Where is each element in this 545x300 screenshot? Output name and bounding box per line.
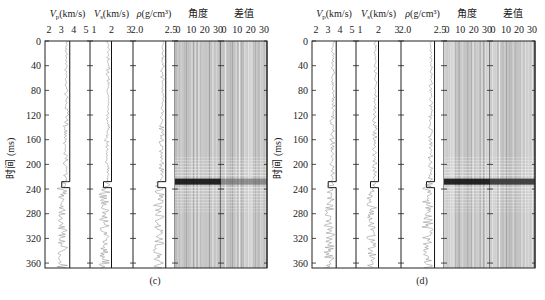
- track-residual: 差值0102030: [221, 7, 269, 268]
- track-tick-label: 3: [59, 24, 64, 35]
- track-tick-label: 2: [109, 24, 114, 35]
- time-axis: 04080120160200240280320360时间 (ms): [271, 36, 316, 269]
- track-rho: ρ(g/cm³)2.02.5: [131, 8, 178, 268]
- track-tick-label: 10: [186, 24, 196, 35]
- track-tick-label: 0: [491, 24, 496, 35]
- track-tick-label: 0: [445, 24, 450, 35]
- time-tick-label: 0: [36, 36, 41, 47]
- time-tick-label: 80: [31, 85, 41, 96]
- time-tick-label: 160: [26, 134, 41, 145]
- time-tick-label: 120: [293, 110, 308, 121]
- time-tick-label: 360: [26, 258, 41, 269]
- time-tick-label: 280: [293, 208, 308, 219]
- time-tick-label: 120: [26, 110, 41, 121]
- track-vs: Vs(km/s)123: [92, 8, 137, 268]
- track-tick-label: 10: [232, 24, 242, 35]
- panel-caption: (d): [416, 275, 428, 287]
- time-tick-label: 240: [293, 184, 308, 195]
- time-tick-label: 200: [26, 159, 41, 170]
- track-header: Vp(km/s): [316, 8, 352, 21]
- track-tick-label: 20: [200, 24, 210, 35]
- track-tick-label: 2: [47, 24, 52, 35]
- track-vp: Vp(km/s)2345: [314, 8, 360, 268]
- track-vs: Vs(km/s)123: [358, 8, 405, 268]
- track-angle-gather: 角度0102030: [175, 7, 223, 268]
- track-tick-label: 10: [455, 24, 465, 35]
- track-tick-label: 2.0: [399, 24, 412, 35]
- panel-c: 04080120160200240280320360时间 (ms)Vp(km/s…: [4, 7, 269, 287]
- track-header: Vs(km/s): [361, 8, 396, 21]
- time-tick-label: 320: [26, 233, 41, 244]
- panel-caption: (c): [149, 275, 160, 287]
- track-header: 差值: [234, 7, 254, 19]
- seismic-log-figure: 04080120160200240280320360时间 (ms)Vp(km/s…: [0, 0, 545, 300]
- track-header: ρ(g/cm³): [404, 8, 439, 20]
- time-tick-label: 320: [293, 233, 308, 244]
- track-header: ρ(g/cm³): [136, 8, 171, 20]
- track-header: Vp(km/s): [50, 8, 86, 21]
- track-tick-label: 3: [326, 24, 331, 35]
- track-tick-label: 1: [92, 24, 97, 35]
- track-tick-label: 30: [259, 24, 269, 35]
- panel-d: 04080120160200240280320360时间 (ms)Vp(km/s…: [271, 7, 537, 287]
- track-header: 角度: [457, 7, 477, 19]
- track-tick-label: 10: [501, 24, 511, 35]
- track-header: 差值: [503, 7, 523, 19]
- time-tick-label: 40: [31, 60, 41, 71]
- track-tick-label: 1: [358, 24, 363, 35]
- time-tick-label: 280: [26, 208, 41, 219]
- time-tick-label: 80: [298, 85, 308, 96]
- track-angle-gather: 角度0102030: [444, 7, 492, 268]
- track-residual: 差值0102030: [490, 7, 537, 268]
- track-header: Vs(km/s): [94, 8, 129, 21]
- time-tick-label: 160: [293, 134, 308, 145]
- track-tick-label: 2: [314, 24, 319, 35]
- track-tick-label: 30: [527, 24, 537, 35]
- track-tick-label: 5: [350, 24, 355, 35]
- track-tick-label: 2.0: [131, 24, 144, 35]
- track-tick-label: 20: [246, 24, 256, 35]
- track-tick-label: 4: [338, 24, 343, 35]
- time-axis: 04080120160200240280320360时间 (ms): [4, 36, 49, 269]
- track-tick-label: 20: [514, 24, 524, 35]
- time-tick-label: 0: [303, 36, 308, 47]
- track-header: 角度: [188, 7, 208, 19]
- time-tick-label: 200: [293, 159, 308, 170]
- track-tick-label: 2: [376, 24, 381, 35]
- track-vp: Vp(km/s)2345: [47, 8, 94, 268]
- time-axis-label: 时间 (ms): [271, 138, 284, 179]
- time-tick-label: 360: [293, 258, 308, 269]
- track-tick-label: 0: [222, 24, 227, 35]
- time-axis-label: 时间 (ms): [4, 138, 17, 179]
- track-tick-label: 4: [71, 24, 76, 35]
- track-tick-label: 5: [84, 24, 89, 35]
- track-rho: ρ(g/cm³)2.02.5: [399, 8, 447, 268]
- figure-canvas: 04080120160200240280320360时间 (ms)Vp(km/s…: [0, 0, 545, 300]
- time-tick-label: 240: [26, 184, 41, 195]
- track-tick-label: 20: [469, 24, 479, 35]
- track-tick-label: 0: [176, 24, 181, 35]
- time-tick-label: 40: [298, 60, 308, 71]
